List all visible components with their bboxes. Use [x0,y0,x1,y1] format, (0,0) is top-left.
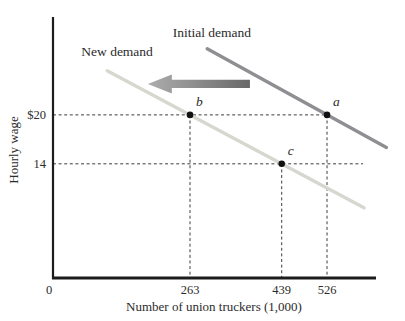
dashed-guides-group [53,115,363,278]
marker-point-a [324,112,331,119]
x-axis-title: Number of union truckers (1,000) [126,299,302,314]
marker-point-c [278,161,285,168]
marker-point-b [187,112,194,119]
marker-label-b: b [196,94,203,109]
demand-curves-group [107,49,386,208]
demand-shift-figure: abc $20140263439526 Initial demandNew de… [0,0,405,321]
y-axis-title: Hourly wage [6,116,21,184]
demand-chart: abc $20140263439526 Initial demandNew de… [0,0,405,321]
series-label-initial-demand: Initial demand [173,25,252,40]
x-tick-label-263: 263 [181,283,200,297]
series-label-new-demand: New demand [81,44,153,59]
tick-labels-group: $20140263439526 [27,108,336,297]
point-markers-group: abc [187,94,340,167]
curve-labels-group: Initial demandNew demand [81,25,251,59]
marker-label-a: a [333,94,340,109]
x-tick-label-526: 526 [318,283,337,297]
demand-shift-left-arrow-icon [148,74,250,93]
x-tick-label-0: 0 [46,283,52,297]
x-tick-label-439: 439 [272,283,291,297]
series-line-initial-demand [207,49,386,148]
y-tick-label-20: $20 [27,108,46,122]
y-tick-label-14: 14 [34,157,47,171]
marker-label-c: c [288,143,294,158]
series-line-new-demand [107,71,364,208]
